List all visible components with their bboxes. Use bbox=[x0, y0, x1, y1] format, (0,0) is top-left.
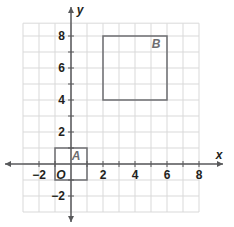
square-b-label: B bbox=[152, 37, 161, 51]
axes bbox=[5, 7, 223, 222]
y-tick-label: 4 bbox=[58, 93, 65, 107]
origin-label: O bbox=[56, 168, 66, 182]
x-tick-label: −2 bbox=[32, 168, 46, 182]
y-tick-label: 2 bbox=[58, 125, 65, 139]
coordinate-plane: AB −22468−22468Oxy bbox=[0, 0, 234, 227]
graph-svg: AB −22468−22468Oxy bbox=[0, 0, 234, 227]
grid-lines bbox=[23, 23, 199, 212]
y-tick-label: 6 bbox=[58, 61, 65, 75]
y-axis-arrow-up-icon bbox=[68, 7, 74, 13]
square-a-label: A bbox=[71, 149, 81, 163]
shapes: AB bbox=[55, 36, 167, 180]
y-axis-label: y bbox=[76, 3, 85, 17]
x-axis-label: x bbox=[215, 148, 224, 162]
x-tick-label: 4 bbox=[132, 168, 139, 182]
y-tick-label: 8 bbox=[58, 29, 65, 43]
x-tick-label: 2 bbox=[100, 168, 107, 182]
labels: −22468−22468Oxy bbox=[32, 3, 224, 203]
x-tick-label: 6 bbox=[164, 168, 171, 182]
x-tick-label: 8 bbox=[196, 168, 203, 182]
y-axis-arrow-down-icon bbox=[68, 216, 74, 222]
y-tick-label: −2 bbox=[51, 189, 65, 203]
x-axis-arrow-left-icon bbox=[5, 161, 11, 167]
